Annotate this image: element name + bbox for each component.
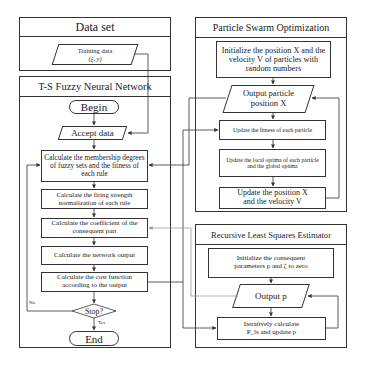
output-p-node: Output p <box>236 284 306 308</box>
stop-decision-label: Stop? <box>72 304 116 318</box>
accept-data-node: Accept data <box>60 126 125 140</box>
firing-strength-node: Calculate the firing strength normalizat… <box>41 189 148 209</box>
pso-title: Particle Swarm Optimization <box>196 18 346 38</box>
update-optima-node: Update the local optima of each particle… <box>219 149 326 177</box>
update-position-line2: and the velocity V <box>243 198 302 207</box>
membership-node: Calculate the membership degrees of fuzz… <box>41 150 148 182</box>
end-node: End <box>69 331 119 346</box>
begin-node: Begin <box>69 100 119 114</box>
iterate-node: Iteratively calculate P_ls and update p <box>217 317 326 340</box>
network-output-node: Calculate the network output <box>41 246 148 265</box>
ts-fnn-title: T-S Fuzzy Neural Network <box>20 77 170 97</box>
rls-title: Recursive Least Squares Estimator <box>196 225 346 245</box>
pso-init-node: Initialize the position X and the veloci… <box>216 41 331 78</box>
training-data-node: Training data (ξ, y) <box>55 44 135 65</box>
rls-init-node: Initialize the consequent parameters p a… <box>208 248 334 278</box>
coefficient-node: Calculate the coefficient of the consequ… <box>41 218 148 238</box>
training-data-label: Training data <box>78 47 113 54</box>
training-data-symbols: (ξ, y) <box>88 55 101 62</box>
output-particle-line2: position X <box>251 99 287 109</box>
update-position-node: Update the position X and the velocity V <box>219 187 326 209</box>
yes-label: Yes <box>98 320 105 325</box>
no-label: No <box>29 300 35 305</box>
output-particle-node: Output particle position X <box>227 85 310 113</box>
update-fitness-node: Update the fitness of each particle <box>219 120 326 140</box>
data-set-title: Data set <box>20 18 170 37</box>
iterate-line2: P_ls and update p <box>247 329 297 337</box>
cost-function-node: Calculate the cost function according to… <box>41 272 148 292</box>
